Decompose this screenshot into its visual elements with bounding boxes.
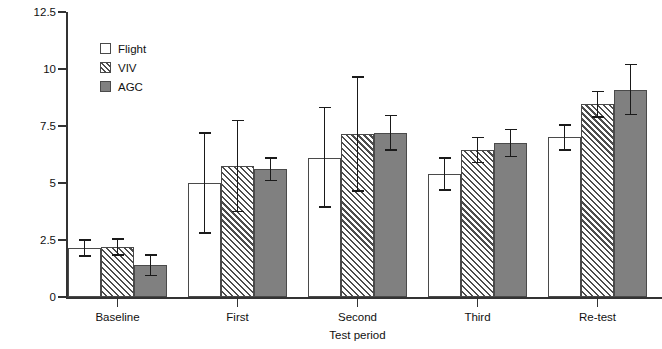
error-bar-cap-upper xyxy=(472,137,484,138)
x-axis-tick-mark xyxy=(597,299,599,307)
legend-item-agc: AGC xyxy=(100,78,146,95)
legend-item-label: Flight xyxy=(118,43,146,55)
legend-item-viv: VIV xyxy=(100,59,146,76)
error-bar-cap-upper xyxy=(385,115,397,116)
error-bar-stem xyxy=(564,125,565,150)
error-bar-stem xyxy=(390,116,391,150)
error-bar-stem xyxy=(270,158,271,181)
error-bar-cap-lower xyxy=(112,254,124,255)
bar-first-agc xyxy=(254,169,287,297)
error-bar-stem xyxy=(630,64,631,114)
x-axis-category-label-first: First xyxy=(226,311,248,323)
error-bar-cap-lower xyxy=(199,232,211,233)
error-bar-stem xyxy=(510,129,511,156)
error-bar-cap-upper xyxy=(625,64,637,65)
error-bar-cap-upper xyxy=(592,91,604,92)
bar-chart: Population spike amplitude (mV) 02.557.5… xyxy=(0,0,662,349)
legend-item-label: AGC xyxy=(118,81,143,93)
error-bar-cap-lower xyxy=(439,189,451,190)
x-axis-tick-mark xyxy=(237,299,239,307)
error-bar-cap-upper xyxy=(232,120,244,121)
error-bar-cap-upper xyxy=(145,254,157,255)
error-bar-cap-upper xyxy=(112,238,124,239)
error-bar-stem xyxy=(477,137,478,162)
bar-third-flight xyxy=(428,174,461,297)
error-bar-cap-lower xyxy=(232,211,244,212)
error-bar-cap-upper xyxy=(559,124,571,125)
error-bar-stem xyxy=(84,240,85,256)
error-bar-stem xyxy=(597,92,598,117)
error-bar-cap-lower xyxy=(352,190,364,191)
error-bar-stem xyxy=(117,239,118,255)
error-bar-stem xyxy=(204,133,205,233)
error-bar-cap-lower xyxy=(592,116,604,117)
error-bar-cap-lower xyxy=(385,149,397,150)
x-axis-line xyxy=(66,297,662,299)
error-bar-stem xyxy=(237,120,238,211)
error-bar-cap-lower xyxy=(145,275,157,276)
x-axis-category-label-second: Second xyxy=(338,311,377,323)
bar-third-viv xyxy=(461,150,494,297)
error-bar-cap-lower xyxy=(319,206,331,207)
white-square-icon xyxy=(100,43,111,54)
error-bar-cap-upper xyxy=(352,76,364,77)
bar-re-test-flight xyxy=(548,137,581,297)
x-axis-tick-mark xyxy=(357,299,359,307)
x-axis-title: Test period xyxy=(329,329,385,341)
error-bar-stem xyxy=(150,255,151,276)
error-bar-cap-upper xyxy=(439,157,451,158)
bar-re-test-viv xyxy=(581,104,614,297)
error-bar-cap-upper xyxy=(505,129,517,130)
error-bar-cap-lower xyxy=(472,162,484,163)
bar-second-agc xyxy=(374,133,407,297)
legend-item-flight: Flight xyxy=(100,40,146,57)
x-axis-tick-mark xyxy=(117,299,119,307)
x-axis-tick-mark xyxy=(477,299,479,307)
error-bar-cap-lower xyxy=(559,149,571,150)
error-bar-cap-lower xyxy=(625,114,637,115)
bar-re-test-agc xyxy=(614,90,647,297)
error-bar-cap-upper xyxy=(199,132,211,133)
x-axis-category-label-re-test: Re-test xyxy=(579,311,616,323)
error-bar-stem xyxy=(324,108,325,207)
error-bar-cap-lower xyxy=(79,255,91,256)
error-bar-cap-lower xyxy=(505,156,517,157)
error-bar-stem xyxy=(357,77,358,191)
hatched-square-icon xyxy=(100,62,111,73)
error-bar-cap-lower xyxy=(265,180,277,181)
x-axis-category-label-third: Third xyxy=(464,311,490,323)
legend-item-label: VIV xyxy=(118,62,137,74)
gray-square-icon xyxy=(100,81,111,92)
x-axis-category-label-baseline: Baseline xyxy=(95,311,139,323)
error-bar-stem xyxy=(444,158,445,190)
legend: FlightVIVAGC xyxy=(100,40,146,97)
error-bar-cap-upper xyxy=(265,157,277,158)
bar-third-agc xyxy=(494,143,527,297)
error-bar-cap-upper xyxy=(79,239,91,240)
error-bar-cap-upper xyxy=(319,107,331,108)
